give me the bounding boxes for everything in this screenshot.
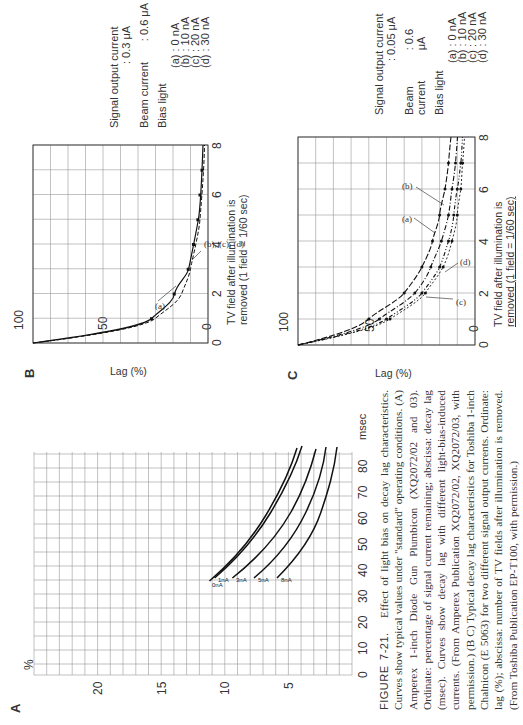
panel-c-annotation-b: (b) [402,181,413,191]
curve-label-1na: 1nA [218,577,229,583]
panel-a-ytick-10: 10 [218,682,232,695]
curve-label-8na: 8nA [281,577,292,583]
panel-b-xlabel-line2: removed (1 field = 1/60 sec) [237,195,249,325]
panel-a-ytick-20: 20 [91,682,105,695]
panel-c-xlabel-line1: TV field after illumination is [492,197,504,327]
legend-bias-label: Bias light [156,68,210,128]
panel-a-xtick: 20 [356,616,370,629]
legend-beam-label: Beam current [403,50,427,115]
panel-c-xtick: 4 [477,238,491,245]
panel-a-curves [210,446,338,581]
panel-a-chart: 0nA 1nA 3nA 5nA 8nA [34,451,354,675]
curve-1na [215,446,302,578]
panel-a-xtick: 70 [356,486,370,499]
panel-a-xtick: 40 [356,564,370,577]
figure-caption: FIGURE 7-21. Effect of light bias on dec… [377,390,520,710]
legend-beam-label: Beam current [138,62,150,128]
panel-a-curve-labels: 0nA 1nA 3nA 5nA 8nA [212,577,292,588]
panel-a-xtick: 0 [356,671,370,678]
legend-bias-row: Bias light (a) : 0 nA (b) : 10 nA (c) : … [156,3,210,128]
panel-c-letter: C [285,371,300,380]
legend-beam-value: : 0.6 μA [138,3,150,41]
legend-signal-value: : 0.05 μA [385,3,397,115]
legend-beam-row: Beam current : 0.6 μA [138,3,150,128]
panel-a-ytick-5: 5 [282,682,296,689]
panel-c-annotation-a: (a) [402,214,412,224]
panel-a-ytick-15: 15 [155,682,169,695]
panel-c-annotation-d: (d) [460,257,471,267]
panel-b-xlabel: TV field after illumination is removed (… [225,195,249,325]
panel-c-xtick: 8 [477,134,491,141]
panel-c-ytick-100: 100 [277,312,291,332]
panel-c-xtick: 2 [477,290,491,297]
curve-label-3na: 3nA [236,577,247,583]
panel-b-ytick-100: 100 [12,310,26,330]
panel-b-xlabel-line1: TV field after illumination is [225,195,237,325]
legend-signal-label: Signal output current [373,3,385,115]
panel-c-xlabel-line2: removed (1 field = 1/60 sec) [504,197,516,327]
panel-a-xticks: 0 10 20 30 40 50 60 70 80 msec [356,415,372,675]
rotated-page: A % [0,0,523,725]
legend-bias-items: (a) : 0 nA (b) : 10 nA (c) : 20 nA (d) :… [447,12,487,63]
panel-b-xtick: 6 [210,191,224,198]
legend-beam-row: Beam current : 0.6 μA [403,3,427,115]
legend-signal-label: Signal output current [108,3,120,128]
panel-c-xtick: 6 [477,186,491,193]
panel-b-xtick: 8 [210,142,224,149]
curve-label-5na: 5nA [258,577,269,583]
panel-a-xtick: 10 [356,642,370,655]
legend-bias-row: Bias light (a) : 0 nA (b) : 10 nA (c) : … [433,3,487,115]
panel-c-ylabel: Lag (%) [375,367,412,379]
panel-c-legend: Signal output current : 0.05 μA Beam cur… [373,3,487,115]
panel-b-letter: B [22,369,37,378]
panel-a-xtick: 30 [356,590,370,603]
panel-b-legend: Signal output current : 0.3 μA Beam curr… [108,3,210,128]
panel-b-xtick: 2 [210,290,224,297]
legend-bias-d: (d) : 30 nA [477,12,487,63]
legend-bias-label: Bias light [433,63,487,115]
panel-b-annotation-a: (a) [155,301,165,311]
legend-bias-d: (d) : 30 nA [200,17,210,68]
panel-b-xtick: 0 [210,339,224,346]
legend-signal-value: : 0.3 μA [120,3,132,128]
panel-c-chart: (a) (b) (c) (d) [298,137,476,345]
curve-8na [277,447,337,578]
legend-bias-items: (a) : 0 nA (b) : 10 nA (c) : 20 nA (d) :… [170,17,210,68]
panel-a-x-unit: msec [356,414,368,440]
figure-number: FIGURE 7-21. [378,632,390,710]
panel-b-xticks: 0 2 4 6 8 [210,133,224,343]
panel-b-xtick: 4 [210,241,224,248]
panel-c-xlabel: TV field after illumination is removed (… [492,197,516,327]
panel-c-annotation-c: (c) [456,297,466,307]
panel-a-letter: A [8,704,23,713]
panel-c-xticks: 0 2 4 6 8 [477,125,491,345]
panel-a-xtick: 50 [356,538,370,551]
panel-a-xtick: 60 [356,512,370,525]
figure-caption-text: Effect of light bias on decay lag charac… [378,390,519,710]
panel-b-ylabel: Lag (%) [110,365,147,377]
panel-b-chart: (a) (b), (c), (d) [33,145,209,343]
legend-beam-value: : 0.6 μA [403,13,427,50]
panel-c-xtick: 0 [477,341,491,348]
panel-a-xtick: 80 [356,460,370,473]
